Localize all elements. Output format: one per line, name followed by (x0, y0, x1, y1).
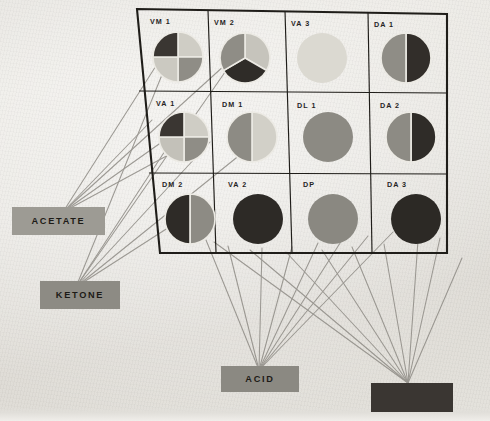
box-acid-label: ACID (245, 374, 274, 384)
box-acetate[interactable]: ACETATE (12, 207, 105, 235)
box-unlabeled[interactable] (371, 383, 453, 412)
box-ketone-label: KETONE (56, 290, 104, 300)
box-unlabeled-rect[interactable] (371, 383, 453, 412)
box-acid[interactable]: ACID (221, 366, 299, 392)
figure-canvas: VM 1VM 2VA 3DA 1VA 1DM 1DL 1DA 2DM 2VA 2… (0, 0, 490, 421)
box-ketone[interactable]: KETONE (40, 281, 120, 309)
compound-boxes: ACETATE KETONE ACID (0, 0, 490, 421)
box-acetate-label: ACETATE (32, 216, 86, 226)
